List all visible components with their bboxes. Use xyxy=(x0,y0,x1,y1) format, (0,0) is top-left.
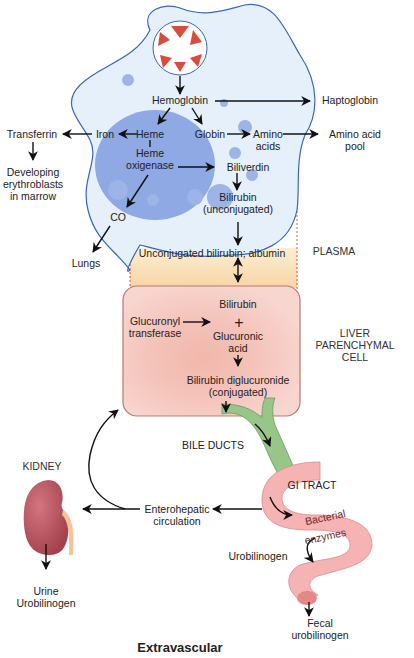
heme-label: Heme xyxy=(136,128,164,140)
bile-ducts-label: BILE DUCTS xyxy=(182,439,244,451)
vesicle xyxy=(229,147,241,159)
gi-tract-label: GI TRACT xyxy=(288,479,337,491)
liver-label-3: CELL xyxy=(342,351,368,363)
haptoglobin-label: Haptoglobin xyxy=(322,94,378,106)
liver-bilirubin-label: Bilirubin xyxy=(219,298,257,310)
bilirubin-unconjugated-label-2: (unconjugated) xyxy=(203,203,273,215)
transferrin-label: Transferrin xyxy=(7,128,58,140)
bilirubin-metabolism-diagram: RBC Hemoglob xyxy=(0,0,414,658)
biliverdin-label: Biliverdin xyxy=(227,161,270,173)
glucuronic-acid-label-1: Glucuronic xyxy=(213,330,263,342)
kidney xyxy=(24,480,69,555)
iron-label: Iron xyxy=(96,128,114,140)
vesicle xyxy=(108,180,128,200)
vesicle xyxy=(220,99,228,107)
diglucuronide-label-2: (conjugated) xyxy=(209,386,267,398)
fecal-label-2: urobilinogen xyxy=(291,629,348,641)
bilirubin-unconjugated-label-1: Bilirubin xyxy=(219,191,257,203)
globin-label: Globin xyxy=(195,128,226,140)
glucuronyl-transferase-label-1: Glucuronyl xyxy=(130,315,180,327)
vesicle xyxy=(187,189,203,205)
amino-acids-label-1: Amino xyxy=(253,128,283,140)
amino-acid-pool-label-2: pool xyxy=(345,140,365,152)
hemoglobin-label: Hemoglobin xyxy=(152,94,208,106)
diagram-canvas: RBC Hemoglob xyxy=(0,0,414,658)
lungs-label: Lungs xyxy=(72,257,101,269)
glucuronyl-transferase-label-2: transferase xyxy=(129,327,182,339)
urine-label-2: Urobilinogen xyxy=(17,597,76,609)
plasma-label: PLASMA xyxy=(313,245,356,257)
fecal-label-1: Fecal xyxy=(307,617,333,629)
enterohepatic-label-2: circulation xyxy=(153,515,200,527)
amino-acid-pool-label-1: Amino acid xyxy=(329,128,381,140)
vesicle xyxy=(147,194,159,206)
vesicle xyxy=(238,120,252,134)
heme-oxigenase-label-1: Heme xyxy=(136,147,164,159)
rbc-label: RBC xyxy=(169,43,190,54)
diagram-title: Extravascular xyxy=(137,640,222,655)
vesicle xyxy=(122,74,134,86)
urine-label-1: Urine xyxy=(33,585,58,597)
plasma-text: Unconjugated bilirubin; albumin xyxy=(139,247,286,259)
developing-label-3: in marrow xyxy=(10,190,57,202)
urobilinogen-label: Urobilinogen xyxy=(229,550,288,562)
gi-tract-end xyxy=(297,591,317,605)
plus-sign: + xyxy=(234,314,243,331)
amino-acids-label-2: acids xyxy=(256,140,281,152)
rbc-vacuole: RBC xyxy=(153,21,207,75)
liver-label-2: PARENCHYMAL xyxy=(315,339,394,351)
co-label: CO xyxy=(110,211,126,223)
developing-label-1: Developing xyxy=(7,166,60,178)
heme-oxigenase-label-2: oxigenase xyxy=(126,159,174,171)
liver-label-1: LIVER xyxy=(340,327,371,339)
enterohepatic-label-1: Enterohepatic xyxy=(145,503,210,515)
developing-label-2: erythroblasts xyxy=(3,178,63,190)
kidney-label: KIDNEY xyxy=(22,460,61,472)
diglucuronide-label-1: Bilirubin diglucuronide xyxy=(187,374,290,386)
glucuronic-acid-label-2: acid xyxy=(228,342,247,354)
